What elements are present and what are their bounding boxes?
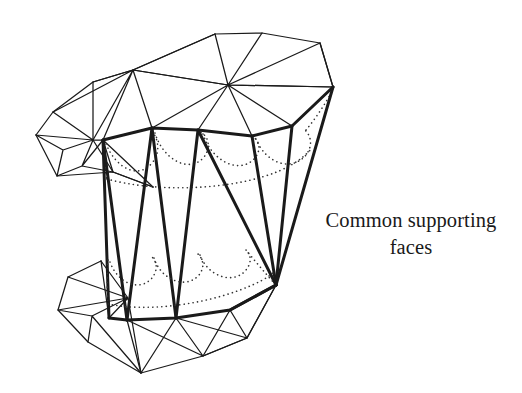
annotation-common-supporting-faces: Common supporting faces	[311, 207, 511, 261]
polyhedra-diagram	[0, 0, 522, 393]
figure-canvas: Common supporting faces	[0, 0, 522, 393]
